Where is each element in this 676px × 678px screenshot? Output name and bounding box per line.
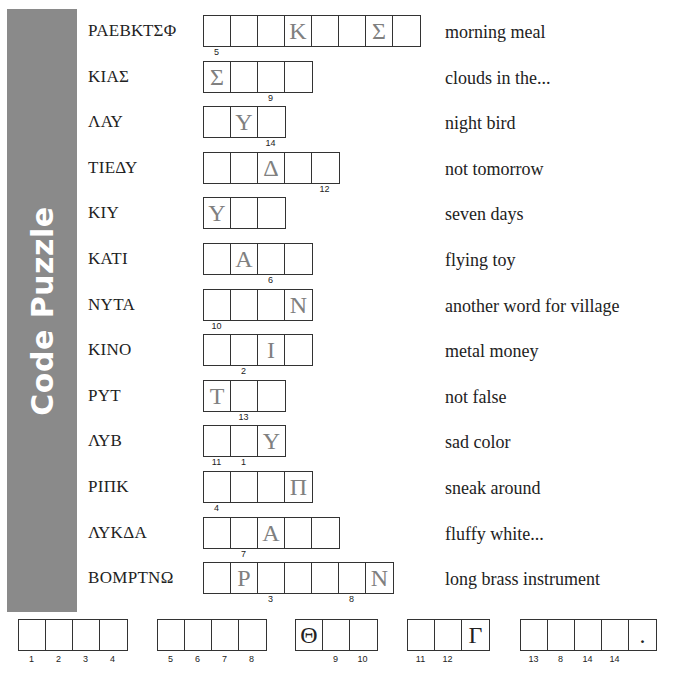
scrambled-word: ΛΥΒ bbox=[88, 431, 122, 451]
letter-cell[interactable] bbox=[393, 16, 420, 46]
letter-cell[interactable] bbox=[339, 563, 366, 593]
scrambled-word: ΒΟΜΡΤΝΩ bbox=[88, 568, 174, 588]
letter-cell[interactable]: Δ bbox=[258, 153, 285, 183]
letter-cell[interactable] bbox=[204, 16, 231, 46]
letter-cell[interactable]: Υ bbox=[231, 107, 258, 137]
puzzle-row: ΚΙΥΥseven days bbox=[0, 197, 676, 243]
final-cell-numbers: 1381414 bbox=[520, 651, 657, 663]
final-answer-grid: Θ bbox=[295, 619, 378, 651]
letter-cell[interactable] bbox=[204, 335, 231, 365]
letter-cell[interactable] bbox=[258, 107, 285, 137]
letter-cell[interactable]: Ν bbox=[366, 563, 393, 593]
letter-cell[interactable]: Π bbox=[285, 472, 312, 502]
letter-cell[interactable] bbox=[258, 472, 285, 502]
final-letter-cell[interactable] bbox=[575, 620, 602, 650]
letter-cell[interactable] bbox=[231, 518, 258, 548]
letter-cell[interactable] bbox=[285, 62, 312, 92]
letter-cell[interactable] bbox=[285, 244, 312, 274]
final-letter-cell[interactable] bbox=[323, 620, 350, 650]
letter-cell[interactable] bbox=[231, 472, 258, 502]
letter-cell[interactable]: Α bbox=[258, 518, 285, 548]
letter-cell[interactable]: Ρ bbox=[231, 563, 258, 593]
letter-cell[interactable] bbox=[231, 335, 258, 365]
final-answer-word: 5678 bbox=[157, 619, 267, 663]
scrambled-word: ΤΙΕΔΥ bbox=[88, 158, 138, 178]
final-letter-cell[interactable] bbox=[435, 620, 462, 650]
letter-cell[interactable] bbox=[204, 153, 231, 183]
clue-text: sneak around bbox=[445, 478, 540, 499]
letter-cell[interactable] bbox=[285, 153, 312, 183]
final-letter-cell[interactable] bbox=[602, 620, 629, 650]
final-answer-grid: . bbox=[520, 619, 657, 651]
letter-cell[interactable] bbox=[285, 518, 312, 548]
final-letter-cell[interactable] bbox=[158, 620, 185, 650]
final-letter-cell[interactable] bbox=[19, 620, 46, 650]
letter-cell[interactable] bbox=[312, 518, 339, 548]
scrambled-word: ΚΑΤΙ bbox=[88, 249, 128, 269]
letter-cell[interactable] bbox=[285, 335, 312, 365]
letter-cell[interactable] bbox=[204, 426, 231, 456]
final-letter-cell[interactable] bbox=[46, 620, 73, 650]
final-letter-cell[interactable] bbox=[350, 620, 377, 650]
letter-cell[interactable] bbox=[258, 198, 285, 228]
final-cell-number: 9 bbox=[322, 654, 349, 664]
letter-cell[interactable] bbox=[312, 16, 339, 46]
letter-cell[interactable] bbox=[204, 563, 231, 593]
letter-cell[interactable] bbox=[258, 563, 285, 593]
letter-cell[interactable] bbox=[231, 62, 258, 92]
final-letter-cell[interactable] bbox=[521, 620, 548, 650]
letter-cell[interactable] bbox=[231, 198, 258, 228]
letter-cell[interactable] bbox=[258, 16, 285, 46]
answer-grid: Υ bbox=[203, 106, 286, 138]
final-cell-numbers: 1234 bbox=[18, 651, 128, 663]
clue-text: clouds in the... bbox=[445, 68, 551, 89]
letter-cell[interactable]: Α bbox=[231, 244, 258, 274]
final-letter-cell[interactable] bbox=[73, 620, 100, 650]
answer-grid: Υ bbox=[203, 197, 286, 229]
letter-cell[interactable] bbox=[204, 518, 231, 548]
letter-cell[interactable] bbox=[258, 244, 285, 274]
answer-grid: Υ bbox=[203, 425, 286, 457]
scrambled-word: ΚΙΑΣ bbox=[88, 67, 129, 87]
letter-cell[interactable] bbox=[312, 153, 339, 183]
final-letter-cell[interactable]: Θ bbox=[296, 620, 323, 650]
final-letter-cell[interactable] bbox=[185, 620, 212, 650]
letter-cell[interactable] bbox=[231, 426, 258, 456]
cell-number: 3 bbox=[257, 594, 284, 604]
letter-cell[interactable]: Υ bbox=[258, 426, 285, 456]
letter-cell[interactable] bbox=[231, 16, 258, 46]
letter-cell[interactable]: Σ bbox=[366, 16, 393, 46]
letter-cell[interactable] bbox=[258, 290, 285, 320]
puzzle-row: ΡΑΕΒΚΤΣΦΚΣ5morning meal bbox=[0, 15, 676, 61]
letter-cell[interactable] bbox=[204, 107, 231, 137]
letter-cell[interactable]: Κ bbox=[285, 16, 312, 46]
letter-cell[interactable] bbox=[258, 62, 285, 92]
letter-cell[interactable]: Ι bbox=[258, 335, 285, 365]
letter-cell[interactable]: Τ bbox=[204, 381, 231, 411]
answer-grid: Τ bbox=[203, 380, 286, 412]
letter-cell[interactable] bbox=[258, 381, 285, 411]
letter-cell[interactable] bbox=[339, 16, 366, 46]
letter-cell[interactable] bbox=[231, 290, 258, 320]
letter-cell[interactable]: Σ bbox=[204, 62, 231, 92]
letter-cell[interactable] bbox=[231, 153, 258, 183]
letter-cell[interactable]: Ν bbox=[285, 290, 312, 320]
final-letter-cell[interactable] bbox=[212, 620, 239, 650]
final-cell-numbers: 910 bbox=[295, 651, 378, 663]
letter-cell[interactable] bbox=[285, 563, 312, 593]
letter-cell[interactable] bbox=[231, 381, 258, 411]
final-letter-cell[interactable]: . bbox=[629, 620, 656, 650]
puzzle-row: ΚΙΝΟΙ2metal money bbox=[0, 334, 676, 380]
letter-cell[interactable] bbox=[204, 244, 231, 274]
letter-cell[interactable]: Υ bbox=[204, 198, 231, 228]
final-letter-cell[interactable] bbox=[408, 620, 435, 650]
final-answer-word: Γ1112 bbox=[407, 619, 490, 663]
final-letter-cell[interactable] bbox=[239, 620, 266, 650]
final-cell-number: 7 bbox=[211, 654, 238, 664]
final-letter-cell[interactable]: Γ bbox=[462, 620, 489, 650]
letter-cell[interactable] bbox=[312, 563, 339, 593]
final-letter-cell[interactable] bbox=[548, 620, 575, 650]
letter-cell[interactable] bbox=[204, 290, 231, 320]
final-letter-cell[interactable] bbox=[100, 620, 127, 650]
letter-cell[interactable] bbox=[204, 472, 231, 502]
